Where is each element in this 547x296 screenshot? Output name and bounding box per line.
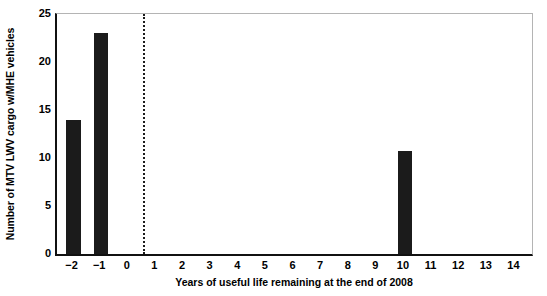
- x-tick-label: 13: [471, 259, 501, 271]
- x-tick-label: 1: [139, 259, 169, 271]
- x-tick-label: 3: [195, 259, 225, 271]
- plot-inner: [57, 14, 532, 254]
- x-axis-title: Years of useful life remaining at the en…: [55, 276, 533, 288]
- x-tick-label: 11: [416, 259, 446, 271]
- y-tick-label: 0: [5, 248, 51, 259]
- x-tick-label: −1: [84, 259, 114, 271]
- x-tick-label: 9: [360, 259, 390, 271]
- x-tick-label: 4: [222, 259, 252, 271]
- x-tick-label: 2: [167, 259, 197, 271]
- x-tick-label: 12: [443, 259, 473, 271]
- x-tick-label: 6: [278, 259, 308, 271]
- x-tick-label: 5: [250, 259, 280, 271]
- y-tick-label: 20: [5, 56, 51, 67]
- x-tick-label: 14: [498, 259, 528, 271]
- x-tick-label: 7: [305, 259, 335, 271]
- x-tick-label: 10: [388, 259, 418, 271]
- plot-area: [55, 13, 533, 256]
- y-axis-title: Number of MTV LWV cargo w/MHE vehicles: [2, 4, 18, 264]
- bar: [66, 120, 80, 254]
- y-tick-label: 25: [5, 8, 51, 19]
- x-tick-label: −2: [57, 259, 87, 271]
- y-tick-label: 15: [5, 104, 51, 115]
- bar: [398, 151, 412, 254]
- y-tick-label: 5: [5, 200, 51, 211]
- x-tick-label: 8: [333, 259, 363, 271]
- bar: [94, 33, 108, 254]
- x-tick-label: 0: [112, 259, 142, 271]
- y-tick-label: 10: [5, 152, 51, 163]
- vertical-dashed-divider: [143, 14, 145, 254]
- chart-figure: Number of MTV LWV cargo w/MHE vehicles 0…: [0, 0, 547, 296]
